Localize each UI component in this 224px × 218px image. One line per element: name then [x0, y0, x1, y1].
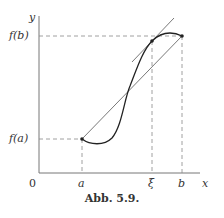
x-axis-label: x [202, 178, 208, 189]
a-tick-label: a [78, 178, 85, 189]
point-b [180, 34, 184, 38]
xi-tick-label: ξ [148, 178, 154, 189]
y-axis-label: y [29, 12, 35, 23]
b-tick-label: b [178, 178, 185, 189]
secant-line [82, 36, 182, 139]
fb-tick-label: f(b) [9, 30, 29, 41]
point-xi [150, 39, 154, 43]
figure-caption: Abb. 5.9. [0, 192, 224, 205]
function-curve [82, 33, 182, 144]
fa-tick-label: f(a) [9, 133, 28, 144]
point-a [80, 137, 84, 141]
origin-label: 0 [29, 178, 36, 189]
mean-value-theorem-figure: y f(b) f(a) 0 a ξ b x Abb. 5.9. [0, 0, 224, 218]
